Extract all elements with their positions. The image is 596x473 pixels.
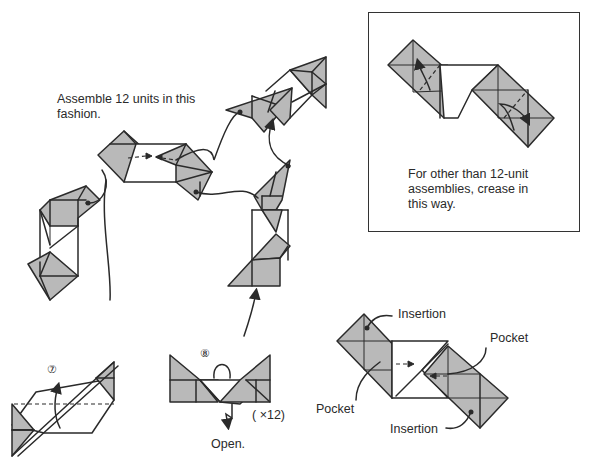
unit-top-right	[226, 57, 326, 132]
unit-right-column	[228, 160, 291, 286]
inset-crease-diagram	[388, 40, 554, 147]
inset-caption-line3: this way.	[408, 197, 456, 212]
unit-middle	[98, 131, 212, 200]
inset-caption-line1: For other than 12-unit	[408, 167, 528, 182]
step8-to-assembly-arrow	[244, 292, 256, 336]
label-insertion-bottom: Insertion	[390, 422, 438, 437]
origami-diagram: Assemble 12 units in this fashion. For o…	[0, 0, 596, 473]
connector-curve	[104, 180, 110, 300]
label-pocket-right: Pocket	[490, 331, 528, 346]
step-8-open-label: Open.	[211, 437, 245, 452]
joint-detail-diagram	[337, 314, 508, 428]
step-8-multiplier: ( ×12)	[252, 408, 285, 423]
assembly-caption-line1: Assemble 12 units in this	[57, 92, 195, 107]
label-pocket-left: Pocket	[316, 402, 354, 417]
step-7-diagram	[12, 362, 118, 456]
connector-arrow	[269, 122, 290, 166]
inset-caption-line2: assemblies, crease in	[408, 182, 528, 197]
diagram-canvas	[0, 0, 596, 473]
label-insertion-top: Insertion	[398, 307, 446, 322]
assembly-caption-line2: fashion.	[57, 107, 101, 122]
step-7-number: ⑦	[47, 362, 57, 377]
connector-curve	[196, 191, 258, 198]
step-8-number: ⑧	[200, 346, 210, 361]
